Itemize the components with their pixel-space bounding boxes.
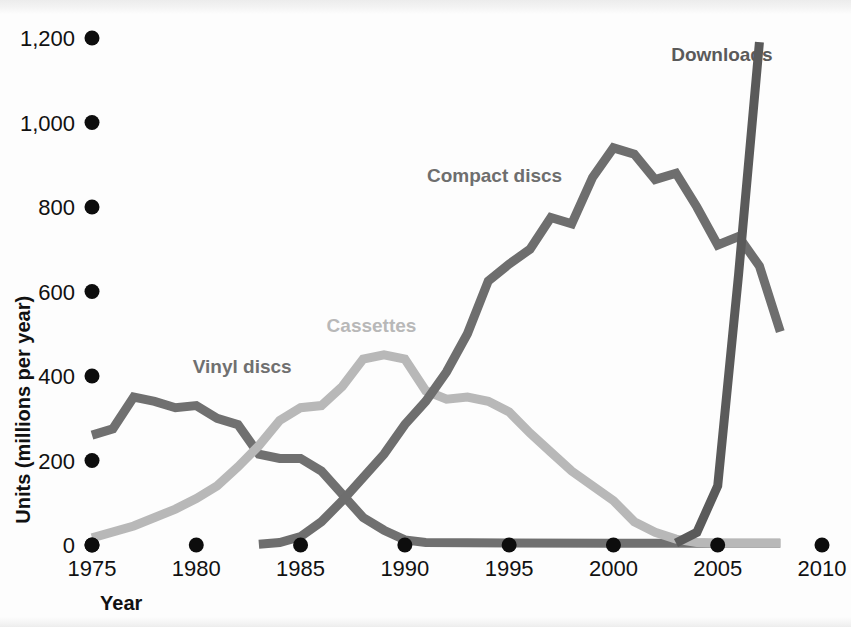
x-tick-marker bbox=[189, 538, 204, 553]
series-label-vinyl-discs: Vinyl discs bbox=[193, 356, 292, 377]
y-tick-marker bbox=[85, 284, 100, 299]
x-tick-marker bbox=[502, 538, 517, 553]
y-tick-marker bbox=[85, 200, 100, 215]
y-tick-label: 600 bbox=[38, 280, 75, 305]
x-tick-label: 2010 bbox=[798, 556, 847, 581]
x-tick-marker bbox=[710, 538, 725, 553]
y-axis-title: Units (millions per year) bbox=[12, 296, 34, 524]
y-tick-label: 0 bbox=[63, 533, 75, 558]
x-tick-label: 1975 bbox=[68, 556, 117, 581]
y-tick-label: 1,000 bbox=[20, 111, 75, 136]
y-tick-marker bbox=[85, 115, 100, 130]
y-tick-label: 200 bbox=[38, 449, 75, 474]
x-tick-label: 2000 bbox=[589, 556, 638, 581]
series-label-downloads: Downloads bbox=[671, 44, 772, 65]
y-tick-marker bbox=[85, 453, 100, 468]
x-tick-label: 2005 bbox=[693, 556, 742, 581]
x-tick-marker bbox=[293, 538, 308, 553]
series-line-downloads bbox=[676, 42, 759, 543]
y-tick-marker bbox=[85, 31, 100, 46]
x-tick-label: 1990 bbox=[380, 556, 429, 581]
line-chart: 02004006008001,0001,20019751980198519901… bbox=[0, 0, 851, 627]
y-tick-label: 1,200 bbox=[20, 26, 75, 51]
x-tick-label: 1995 bbox=[485, 556, 534, 581]
x-tick-label: 1985 bbox=[276, 556, 325, 581]
series-label-cassettes: Cassettes bbox=[327, 315, 417, 336]
y-tick-label: 400 bbox=[38, 364, 75, 389]
chart-canvas: 02004006008001,0001,20019751980198519901… bbox=[0, 0, 851, 627]
x-tick-marker bbox=[606, 538, 621, 553]
x-tick-marker bbox=[815, 538, 830, 553]
series-label-compact-discs: Compact discs bbox=[427, 165, 562, 186]
x-tick-marker bbox=[397, 538, 412, 553]
y-tick-marker bbox=[85, 369, 100, 384]
series-line-vinyl-discs bbox=[92, 397, 780, 543]
x-axis-title: Year bbox=[100, 592, 142, 614]
x-tick-label: 1980 bbox=[172, 556, 221, 581]
x-tick-marker bbox=[85, 538, 100, 553]
y-tick-label: 800 bbox=[38, 195, 75, 220]
